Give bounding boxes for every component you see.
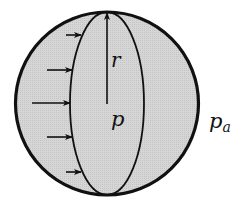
- ambient-pressure-subscript: a: [222, 119, 230, 135]
- ambient-pressure-label: pa: [209, 109, 231, 135]
- radius-label: r: [111, 48, 122, 72]
- bubble-diagram: r p pa: [0, 0, 245, 204]
- ambient-pressure-base: p: [209, 109, 222, 133]
- internal-pressure-label: p: [111, 107, 124, 131]
